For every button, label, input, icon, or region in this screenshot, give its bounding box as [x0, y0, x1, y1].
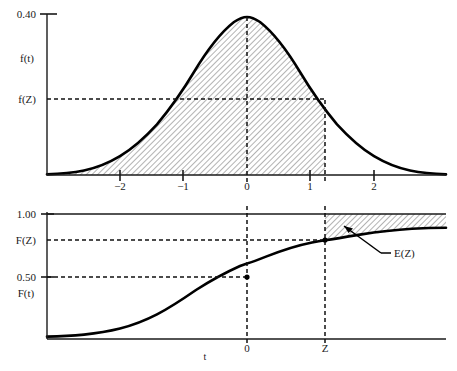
normal-distribution-figure: 0.40 f(Z) f(t) −2 −1 0 1 2 [0, 0, 457, 371]
pdf-xtick-label-1: 1 [307, 180, 313, 192]
cdf-ylabel-050: 0.50 [17, 271, 37, 283]
pdf-ylabel-fz: f(Z) [18, 93, 36, 106]
figure-canvas: 0.40 f(Z) f(t) −2 −1 0 1 2 [0, 0, 457, 371]
cdf-point-median [244, 274, 249, 279]
cdf-x-axis-name: t [204, 351, 207, 362]
pdf-shaded-area [47, 17, 325, 175]
pdf-axis-name: f(t) [20, 52, 34, 65]
cdf-point-fz [322, 237, 327, 242]
cdf-xtick-label-0: 0 [244, 342, 250, 354]
cdf-xtick-label-z: Z [322, 342, 329, 354]
ez-annotation-label: E(Z) [394, 247, 415, 260]
pdf-xtick-label-minus1: −1 [177, 180, 189, 192]
pdf-xtick-label-0: 0 [244, 180, 250, 192]
cdf-ylabel-fz: F(Z) [16, 234, 37, 247]
pdf-xtick-label-minus2: −2 [114, 180, 126, 192]
cdf-panel: 1.00 F(Z) 0.50 F(t) 0 Z t E(Z) [16, 206, 446, 362]
pdf-ylabel-040: 0.40 [17, 8, 37, 20]
cdf-axis-name: F(t) [18, 287, 35, 300]
pdf-panel: 0.40 f(Z) f(t) −2 −1 0 1 2 [17, 8, 446, 192]
cdf-ylabel-100: 1.00 [17, 208, 37, 220]
pdf-xtick-label-2: 2 [371, 180, 377, 192]
